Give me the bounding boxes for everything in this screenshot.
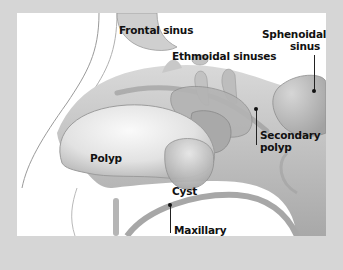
label-cyst: Cyst bbox=[172, 185, 197, 197]
label-sphenoidal-sinus: Sphenoidal sinus bbox=[262, 28, 320, 52]
label-secondary-line2: polyp bbox=[260, 141, 320, 153]
pointer-dot-secondary-polyp bbox=[254, 107, 258, 111]
label-maxillary-sinus: Maxillary sinus bbox=[174, 224, 226, 236]
pointer-dot-maxillary bbox=[168, 203, 172, 207]
diagram-panel: Frontal sinus Ethmoidal sinuses Sphenoid… bbox=[17, 13, 326, 236]
label-secondary-line1: Secondary bbox=[260, 129, 320, 141]
label-secondary-polyp: Secondary polyp bbox=[260, 129, 320, 153]
label-frontal-sinus: Frontal sinus bbox=[119, 24, 193, 36]
label-polyp: Polyp bbox=[90, 152, 122, 164]
leader-secondary-polyp bbox=[256, 109, 257, 145]
label-sphenoidal-line1: Sphenoidal bbox=[262, 28, 320, 40]
cyst-shape bbox=[165, 139, 214, 190]
pointer-dot-sphenoidal bbox=[312, 89, 316, 93]
leader-sphenoidal bbox=[314, 55, 315, 90]
label-sphenoidal-line2: sinus bbox=[262, 40, 320, 52]
label-maxillary-line1: Maxillary bbox=[174, 224, 226, 236]
label-ethmoidal-sinuses: Ethmoidal sinuses bbox=[172, 50, 276, 62]
leader-maxillary bbox=[170, 205, 171, 233]
